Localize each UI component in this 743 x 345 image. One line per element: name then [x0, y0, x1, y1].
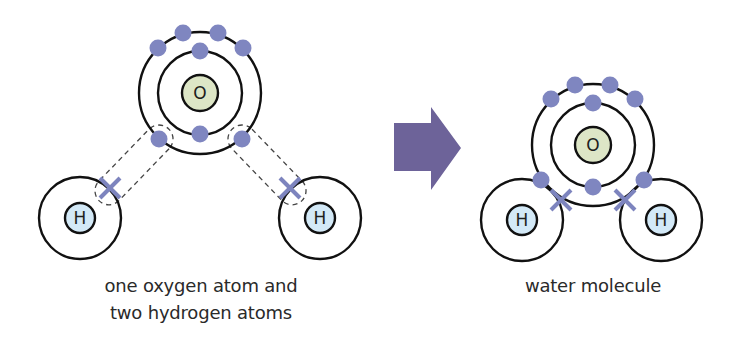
- electron-cross-icon: [100, 178, 120, 198]
- electron: [567, 77, 584, 94]
- arrow-right-icon: [394, 107, 461, 190]
- electron: [602, 77, 619, 94]
- caption-water-molecule: water molecule: [500, 272, 686, 299]
- electron: [235, 40, 252, 57]
- left-panel: O H H: [39, 25, 361, 260]
- caption-line-1: one oxygen atom and: [90, 272, 312, 299]
- electron-cross-icon: [280, 178, 300, 198]
- hydrogen-label: H: [655, 210, 668, 230]
- hydrogen-atom-right-bonded: H: [615, 190, 676, 235]
- hydrogen-label: H: [516, 210, 529, 230]
- electron: [585, 95, 602, 112]
- right-panel: O H H: [481, 77, 702, 262]
- caption-separate-atoms: one oxygen atom and two hydrogen atoms: [90, 272, 312, 326]
- oxygen-label: O: [586, 135, 599, 155]
- electron: [627, 91, 644, 108]
- electron: [175, 25, 192, 42]
- oxygen-label: O: [193, 83, 206, 103]
- electron: [533, 172, 550, 189]
- electron: [543, 91, 560, 108]
- hydrogen-label: H: [314, 208, 327, 228]
- hydrogen-atom-left-separate: H: [39, 177, 121, 259]
- caption-line-1: water molecule: [500, 272, 686, 299]
- electron: [192, 126, 209, 143]
- electron: [636, 172, 653, 189]
- hydrogen-label: H: [74, 208, 87, 228]
- electron: [210, 25, 227, 42]
- electron: [151, 131, 168, 148]
- electron: [234, 131, 251, 148]
- oxygen-atom-separate: O: [139, 25, 261, 155]
- electron: [192, 43, 209, 60]
- caption-line-2: two hydrogen atoms: [90, 299, 312, 326]
- hydrogen-atom-right-separate: H: [279, 177, 361, 259]
- electron: [150, 40, 167, 57]
- electron: [585, 179, 602, 196]
